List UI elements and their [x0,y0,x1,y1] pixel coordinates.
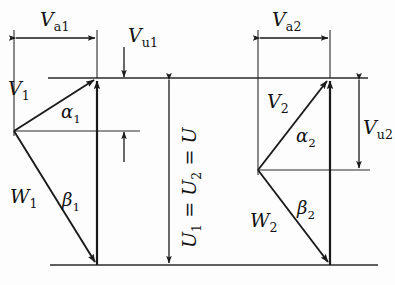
label-v1: V1 [8,79,30,102]
label-beta1: β1 [62,191,80,213]
label-v2: V2 [267,92,289,115]
label-v-u2: Vu2 [363,118,393,141]
label-v-u1: Vu1 [128,26,158,49]
label-w2: W2 [250,211,278,234]
label-u-blade-speed: U1 = U2 = U [180,127,203,248]
velocity-triangle-diagram: Va1 Va2 Vu1 Vu2 V1 V2 W1 W2 α1 α2 β1 β2 … [0,0,395,285]
label-w1: W1 [10,187,38,210]
label-v-a2: Va2 [272,10,302,33]
label-alpha2: α2 [296,127,316,149]
label-v-a1: Va1 [40,10,70,33]
label-alpha1: α1 [61,103,81,125]
label-beta2: β2 [297,199,315,221]
